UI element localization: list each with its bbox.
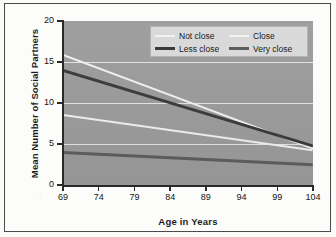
x-tick-label-89: 89 [192,192,220,202]
x-tick-104 [312,186,314,191]
y-tick-15 [57,61,62,63]
figure-page: Mean Number of Social Partners 05101520 … [0,0,336,237]
x-tick-69 [62,186,64,191]
legend-row-top: Not close Close [155,29,303,42]
chart-figure: Mean Number of Social Partners 05101520 … [0,0,336,237]
x-tick-label-79: 79 [120,192,148,202]
x-tick-label-94: 94 [228,192,256,202]
legend-row-bottom: Less close Very close [155,42,303,55]
x-tick-84 [169,186,171,191]
x-tick-79 [134,186,136,191]
y-tick-label-10: 10 [28,97,54,107]
legend-entry-not-close: Not close [155,29,229,42]
y-tick-label-15: 15 [28,56,54,66]
y-tick-label-5: 5 [28,138,54,148]
legend-label-less-close: Less close [179,44,219,54]
series-line-very-close [63,151,313,166]
y-tick-label-20: 20 [28,15,54,25]
series-line-less-close [63,69,313,147]
x-tick-label-69: 69 [49,192,77,202]
x-tick-74 [98,186,100,191]
legend-swatch-not-close [155,35,175,37]
x-tick-label-104: 104 [299,192,327,202]
legend-label-close: Close [253,31,275,41]
x-tick-label-99: 99 [263,192,291,202]
y-tick-label-0: 0 [28,179,54,189]
legend-swatch-less-close [155,47,175,50]
legend-entry-close: Close [229,29,303,42]
chart-legend: Not close Close Less close Very close [150,26,308,57]
y-tick-10 [57,102,62,104]
x-tick-94 [241,186,243,191]
y-tick-20 [57,20,62,22]
legend-swatch-close [229,35,249,37]
x-axis-label: Age in Years [63,216,313,227]
x-tick-label-74: 74 [85,192,113,202]
y-tick-5 [57,143,62,145]
y-axis [62,20,64,186]
x-tick-99 [277,186,279,191]
y-tick-0 [57,184,62,186]
legend-entry-less-close: Less close [155,42,229,55]
x-tick-label-84: 84 [156,192,184,202]
legend-label-not-close: Not close [179,31,214,41]
legend-entry-very-close: Very close [229,42,303,55]
x-tick-89 [205,186,207,191]
legend-swatch-very-close [229,47,249,50]
gridline-y-15 [63,62,313,63]
legend-label-very-close: Very close [253,44,292,54]
